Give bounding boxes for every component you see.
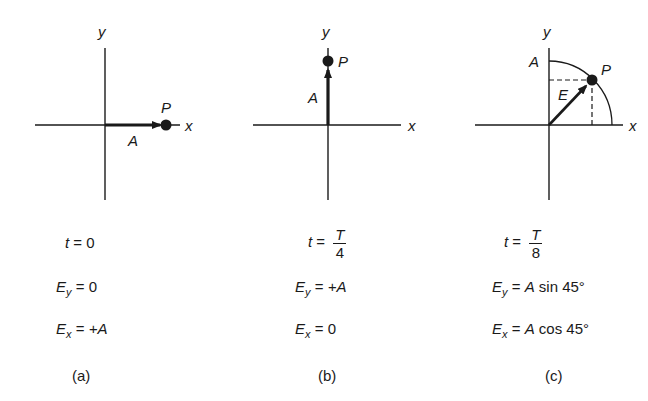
panel-a-ey-equation: Ey = 0	[56, 279, 97, 294]
panel-b-y-axis-label: y	[322, 24, 330, 39]
panel-c-caption: (c)	[545, 368, 563, 383]
panel-c-ex-equation: Ex = A cos 45°	[492, 321, 589, 336]
panel-c-point-dot	[587, 75, 598, 86]
panel-a-x-axis-label: x	[185, 118, 193, 133]
panel-b-point-dot	[323, 56, 334, 67]
panel-b-vector-label: A	[308, 90, 318, 105]
panel-c-y-axis-label: y	[543, 24, 551, 39]
panel-a-vector-label: A	[128, 133, 138, 148]
panel-c-time-equation: t = T 8	[504, 226, 542, 261]
panel-c-point-label: P	[601, 62, 611, 77]
panel-c-x-axis-label: x	[629, 118, 637, 133]
panel-a-point-label: P	[161, 100, 171, 115]
panel-a-y-axis-label: y	[98, 24, 106, 39]
diagram-canvas	[0, 0, 648, 401]
panel-c-time-fraction: T 8	[529, 226, 542, 261]
panel-b-time-fraction: T 4	[333, 226, 346, 261]
panel-b-time-equation: t = T 4	[308, 226, 346, 261]
panel-b-ex-equation: Ex = 0	[295, 321, 336, 336]
panel-c-amplitude-label: A	[529, 54, 539, 69]
panel-a-caption: (a)	[72, 368, 90, 383]
panel-b-x-axis-label: x	[408, 118, 416, 133]
panel-c-ey-equation: Ey = A sin 45°	[492, 279, 585, 294]
panel-a-time-equation: t = 0	[65, 235, 95, 250]
panel-b-point-label: P	[338, 54, 348, 69]
panel-b-ey-equation: Ey = +A	[295, 279, 346, 294]
panel-a-ex-equation: Ex = +A	[56, 321, 107, 336]
panel-b-caption: (b)	[318, 368, 336, 383]
panel-a-point-dot	[161, 120, 172, 131]
panel-c-vector-label: E	[558, 87, 568, 102]
